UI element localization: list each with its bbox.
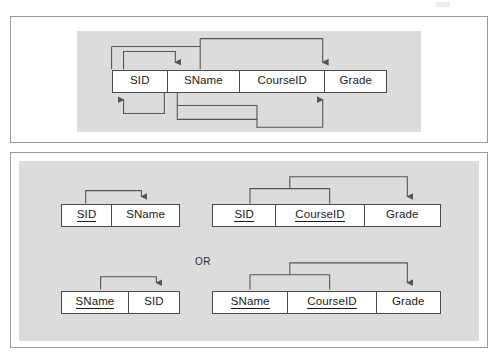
attribute-cell-key: SName — [213, 292, 288, 313]
relation-student-sid: SID SName — [61, 204, 180, 227]
figure-page: SID SName CourseID Grade — [0, 0, 501, 359]
attribute-cell-key: SID — [213, 205, 276, 226]
shaded-area-bottom — [19, 161, 479, 341]
attribute-cell-key: SName — [62, 292, 129, 313]
panel-unnormalized-relation: SID SName CourseID Grade — [10, 16, 488, 143]
panel-decomposed-relations: SID SName SID CourseID Grade OR SName — [10, 152, 488, 348]
attribute-cell: SID — [113, 71, 168, 92]
attribute-cell: Grade — [325, 71, 386, 92]
attribute-cell-key: CourseID — [276, 205, 364, 226]
attribute-cell: CourseID — [240, 71, 325, 92]
relation-enrollment-sid: SID CourseID Grade — [212, 204, 441, 227]
attribute-cell: Grade — [377, 292, 440, 313]
attribute-cell-key: CourseID — [288, 292, 376, 313]
attribute-cell: SName — [168, 71, 240, 92]
attribute-cell-key: SID — [62, 205, 112, 226]
scan-artifact — [436, 2, 450, 7]
relation-student-sname: SName SID — [61, 291, 180, 314]
relation-unnormalized: SID SName CourseID Grade — [112, 70, 387, 93]
attribute-cell: SID — [129, 292, 179, 313]
attribute-cell: Grade — [365, 205, 440, 226]
or-separator-label: OR — [195, 256, 211, 267]
attribute-cell: SName — [112, 205, 179, 226]
relation-enrollment-sname: SName CourseID Grade — [212, 291, 441, 314]
